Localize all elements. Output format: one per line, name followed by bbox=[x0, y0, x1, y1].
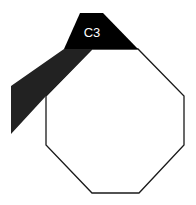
shape-label: C3 bbox=[84, 25, 101, 40]
band-top-segment bbox=[64, 13, 138, 49]
octagon-diagram: C3 bbox=[0, 0, 196, 205]
